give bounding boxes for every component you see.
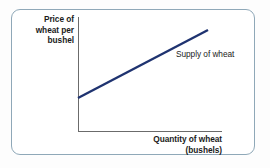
x-axis-line — [78, 131, 222, 132]
y-axis-label: Price of wheat per bushel — [12, 14, 74, 46]
y-axis-line — [78, 17, 79, 132]
y-axis-label-line-3: bushel — [12, 35, 74, 46]
y-axis-label-line-1: Price of — [12, 14, 74, 25]
x-axis-label: Quantity of wheat (bushels) — [96, 134, 222, 155]
x-axis-label-line-1: Quantity of wheat — [96, 134, 222, 145]
figure-root: Price of wheat per bushel Quantity of wh… — [0, 0, 270, 168]
supply-curve-label: Supply of wheat — [176, 49, 234, 60]
x-axis-label-line-2: (bushels) — [96, 145, 222, 156]
y-axis-label-line-2: wheat per — [12, 25, 74, 36]
